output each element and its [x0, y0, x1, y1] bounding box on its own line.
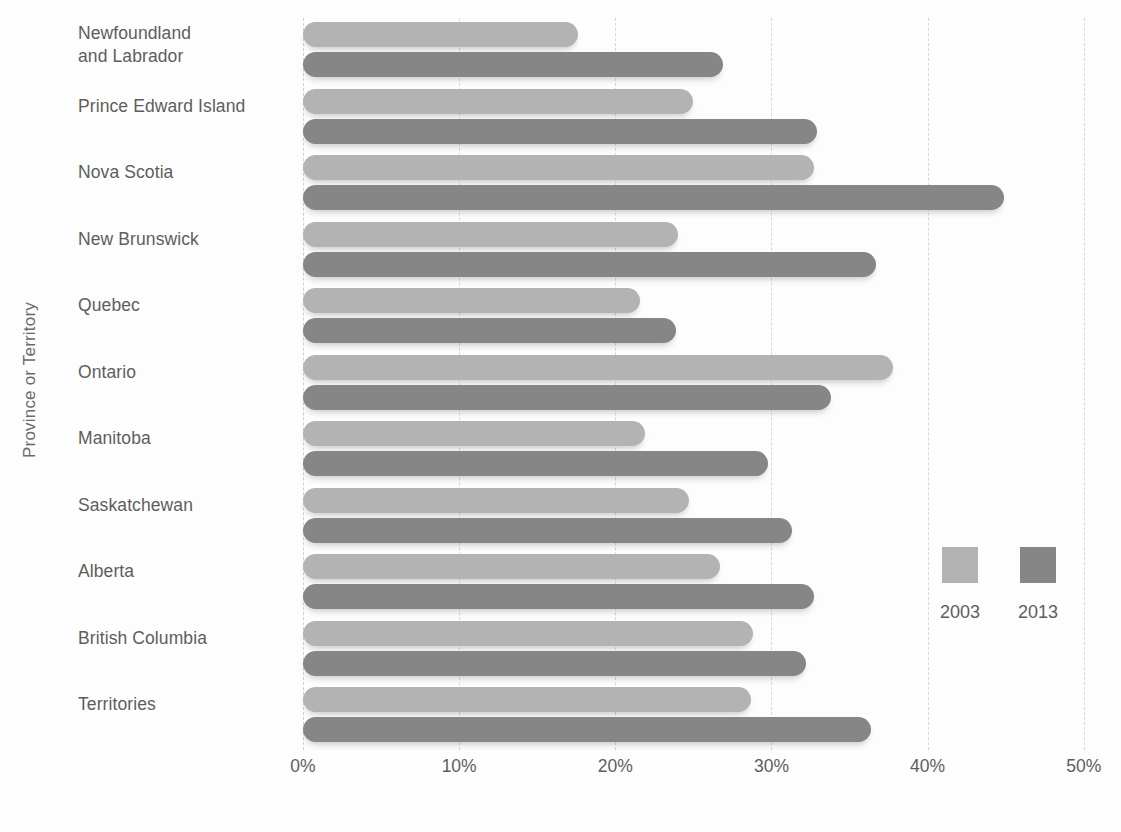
x-tick-label: 10% [442, 756, 477, 777]
bar-2003[interactable] [303, 488, 689, 513]
x-tick-label: 40% [910, 756, 945, 777]
legend-swatch-2013 [1020, 547, 1056, 583]
legend-item-2003[interactable]: 2003 [925, 547, 995, 623]
bar-2013[interactable] [303, 518, 792, 543]
bar-row [303, 155, 1115, 222]
bar-2003[interactable] [303, 621, 753, 646]
category-label: Manitoba [78, 427, 298, 450]
bar-row [303, 222, 1115, 289]
category-label-line: Territories [78, 693, 298, 716]
bar-2013[interactable] [303, 318, 676, 343]
category-label-line: Manitoba [78, 427, 298, 450]
category-label-line: Alberta [78, 560, 298, 583]
bar-2013[interactable] [303, 119, 817, 144]
bar-2003[interactable] [303, 155, 814, 180]
category-label: Nova Scotia [78, 161, 298, 184]
bar-chart: Province or Territory Newfoundlandand La… [0, 0, 1121, 832]
y-axis-title: Province or Territory [0, 0, 60, 760]
bar-2003[interactable] [303, 89, 693, 114]
legend-label-2003: 2003 [925, 602, 995, 623]
category-label-list: Newfoundlandand LabradorPrince Edward Is… [60, 18, 298, 750]
bar-2013[interactable] [303, 185, 1004, 210]
category-label: Saskatchewan [78, 494, 298, 517]
x-axis: 0%10%20%30%40%50% [303, 756, 1115, 790]
category-label: New Brunswick [78, 228, 298, 251]
y-axis-title-text: Province or Territory [20, 302, 40, 458]
bar-2003[interactable] [303, 222, 678, 247]
category-label: Ontario [78, 361, 298, 384]
category-label: Quebec [78, 294, 298, 317]
bar-2013[interactable] [303, 385, 831, 410]
x-tick-label: 20% [598, 756, 633, 777]
category-label-line: Saskatchewan [78, 494, 298, 517]
bar-row [303, 89, 1115, 156]
bar-2003[interactable] [303, 288, 640, 313]
x-tick-label: 0% [290, 756, 315, 777]
bar-2003[interactable] [303, 554, 720, 579]
x-tick-label: 30% [754, 756, 789, 777]
category-label: Territories [78, 693, 298, 716]
bar-2013[interactable] [303, 717, 871, 742]
category-label-line: British Columbia [78, 627, 298, 650]
legend-label-2013: 2013 [1003, 602, 1073, 623]
legend-swatch-2003 [942, 547, 978, 583]
bar-2003[interactable] [303, 355, 893, 380]
category-label-line: Nova Scotia [78, 161, 298, 184]
legend-item-2013[interactable]: 2013 [1003, 547, 1073, 623]
bar-2013[interactable] [303, 451, 768, 476]
bar-2003[interactable] [303, 687, 751, 712]
bar-2013[interactable] [303, 252, 876, 277]
bar-row [303, 421, 1115, 488]
category-label: Prince Edward Island [78, 95, 298, 118]
category-label-line: Newfoundland [78, 22, 298, 45]
bar-row [303, 355, 1115, 422]
category-label-line: Prince Edward Island [78, 95, 298, 118]
bar-row [303, 288, 1115, 355]
legend: 20032013 [925, 547, 1090, 642]
bar-row [303, 22, 1115, 89]
bar-2003[interactable] [303, 22, 578, 47]
bar-row [303, 488, 1115, 555]
category-label-line: New Brunswick [78, 228, 298, 251]
bar-2013[interactable] [303, 651, 806, 676]
category-label: British Columbia [78, 627, 298, 650]
bar-2003[interactable] [303, 421, 645, 446]
category-label-line: Quebec [78, 294, 298, 317]
category-label-line: Ontario [78, 361, 298, 384]
bar-row [303, 687, 1115, 754]
category-label-line: and Labrador [78, 45, 298, 68]
bar-2013[interactable] [303, 52, 723, 77]
category-label: Newfoundlandand Labrador [78, 22, 298, 68]
category-label: Alberta [78, 560, 298, 583]
bar-2013[interactable] [303, 584, 814, 609]
x-tick-label: 50% [1066, 756, 1101, 777]
